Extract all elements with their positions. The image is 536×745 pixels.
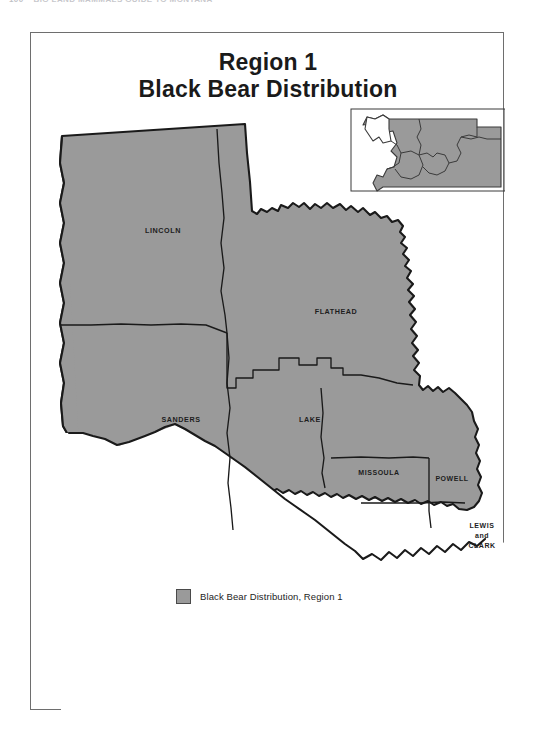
county-label-powell: POWELL <box>435 475 468 482</box>
region-1-distribution-map: LINCOLN FLATHEAD SANDERS LAKE MISSOULA P… <box>31 33 505 711</box>
county-label-lincoln: LINCOLN <box>145 226 181 235</box>
county-label-sanders: SANDERS <box>162 415 201 424</box>
county-label-lewisclark-line3: CLARK <box>468 542 495 549</box>
county-label-missoula: MISSOULA <box>358 469 399 476</box>
running-page-header: 100 BIG LAND MAMMALS GUIDE TO MONTANA <box>0 0 536 6</box>
county-label-lake: LAKE <box>299 415 321 424</box>
running-title: BIG LAND MAMMALS GUIDE TO MONTANA <box>34 0 213 4</box>
figure-frame: Region 1 Black Bear Distribution <box>30 32 504 710</box>
page-folio-number: 100 <box>9 0 24 4</box>
montana-state-inset <box>351 109 505 191</box>
inset-region-1-highlight <box>365 115 391 143</box>
legend-swatch-black-bear-distribution <box>176 589 191 604</box>
county-label-flathead: FLATHEAD <box>315 307 358 316</box>
map-legend: Black Bear Distribution, Region 1 <box>176 589 343 604</box>
legend-label: Black Bear Distribution, Region 1 <box>200 591 343 602</box>
county-label-lewisclark-line2: and <box>475 532 489 539</box>
powell-lewisclark-border <box>361 502 465 503</box>
county-label-lewisclark-line1: LEWIS <box>470 522 495 529</box>
